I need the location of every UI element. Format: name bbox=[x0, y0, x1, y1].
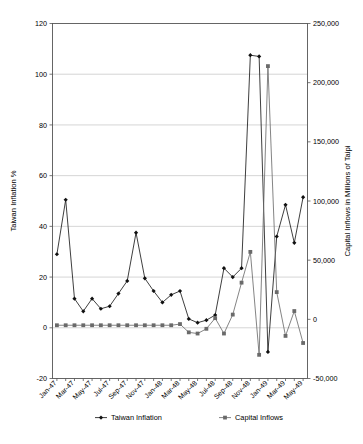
data-point-marker bbox=[231, 313, 235, 317]
chart-legend: Taiwan InflationCapital Inflows bbox=[95, 413, 283, 422]
y-axis-right-tick-label: 200,000 bbox=[313, 78, 339, 87]
data-point-marker bbox=[301, 341, 305, 345]
data-point-marker bbox=[73, 323, 77, 327]
chart-figure: 120100806040200-20 250,000200,000150,000… bbox=[0, 0, 363, 444]
series-line-2 bbox=[57, 66, 303, 355]
data-point-marker bbox=[257, 353, 261, 357]
legend-entry-label: Capital Inflows bbox=[235, 413, 283, 422]
data-point-marker bbox=[283, 203, 287, 207]
y-axis-right-title: Capital Inflows in Millions of Taipi bbox=[343, 145, 352, 256]
x-axis-tick-label: Sep-48 bbox=[213, 379, 235, 401]
y-axis-left-tick-label: 40 bbox=[39, 222, 47, 231]
data-point-marker bbox=[240, 281, 244, 285]
y-axis-right-tick-label: -50,000 bbox=[313, 374, 337, 383]
data-point-marker bbox=[134, 231, 138, 235]
y-axis-left-ticks: 120100806040200-20 bbox=[35, 19, 53, 383]
data-point-marker bbox=[117, 323, 121, 327]
data-point-marker bbox=[143, 323, 147, 327]
x-axis-tick-label: May-49 bbox=[282, 379, 304, 401]
data-point-marker bbox=[266, 350, 270, 354]
x-axis-tick-label: Sep-47 bbox=[107, 379, 129, 401]
data-point-marker bbox=[64, 323, 68, 327]
y-axis-right-tick-label: 150,000 bbox=[313, 137, 339, 146]
data-point-marker bbox=[90, 323, 94, 327]
data-point-marker bbox=[301, 195, 305, 199]
legend-entry-label: Taiwan Inflation bbox=[111, 413, 162, 422]
data-point-marker bbox=[248, 250, 252, 254]
series-markers-group bbox=[55, 53, 305, 357]
y-axis-left-tick-label: 20 bbox=[39, 273, 47, 282]
y-axis-left-tick-label: 60 bbox=[39, 171, 47, 180]
data-point-marker bbox=[55, 252, 59, 256]
y-axis-left-tick-label: 120 bbox=[35, 19, 47, 28]
series-lines-group bbox=[57, 55, 303, 355]
data-point-marker bbox=[178, 322, 182, 326]
data-point-marker bbox=[266, 64, 270, 68]
data-point-marker bbox=[81, 323, 85, 327]
y-axis-right-ticks: 250,000200,000150,000100,00050,0000-50,0… bbox=[308, 19, 339, 383]
y-axis-right-tick-label: 250,000 bbox=[313, 19, 339, 28]
data-point-marker bbox=[64, 198, 68, 202]
data-point-marker bbox=[187, 330, 191, 334]
data-point-marker bbox=[161, 323, 165, 327]
series-line-1 bbox=[57, 55, 303, 352]
y-axis-right-tick-label: 100,000 bbox=[313, 197, 339, 206]
x-axis-tick-label: Nov-48 bbox=[230, 379, 251, 400]
y-axis-left-title: Taiwan Inflation % bbox=[9, 170, 18, 231]
data-point-marker bbox=[152, 323, 156, 327]
chart-canvas: 120100806040200-20 250,000200,000150,000… bbox=[0, 0, 363, 444]
data-point-marker bbox=[169, 323, 173, 327]
y-axis-left-tick-label: -20 bbox=[37, 374, 47, 383]
y-axis-left-tick-label: 0 bbox=[43, 323, 47, 332]
legend-marker-square bbox=[223, 416, 227, 420]
data-point-marker bbox=[178, 289, 182, 293]
y-axis-right-tick-label: 0 bbox=[313, 315, 317, 324]
data-point-marker bbox=[108, 323, 112, 327]
data-point-marker bbox=[55, 323, 59, 327]
y-axis-left-tick-label: 80 bbox=[39, 121, 47, 130]
y-axis-left-tick-label: 100 bbox=[35, 70, 47, 79]
data-point-marker bbox=[204, 327, 208, 331]
data-point-marker bbox=[257, 54, 261, 58]
data-point-marker bbox=[196, 332, 200, 336]
data-point-marker bbox=[134, 323, 138, 327]
data-point-marker bbox=[204, 318, 208, 322]
data-point-marker bbox=[284, 334, 288, 338]
data-point-marker bbox=[292, 241, 296, 245]
data-point-marker bbox=[99, 323, 103, 327]
x-axis-tick-label: Nov-47 bbox=[125, 379, 146, 400]
x-axis-tick-label: May-47 bbox=[71, 379, 93, 401]
data-point-marker bbox=[275, 290, 279, 294]
data-point-marker bbox=[222, 332, 226, 336]
y-axis-right-tick-label: 50,000 bbox=[313, 256, 335, 265]
data-point-marker bbox=[275, 234, 279, 238]
data-point-marker bbox=[195, 321, 199, 325]
data-point-marker bbox=[292, 309, 296, 313]
legend-marker-diamond bbox=[99, 416, 103, 420]
x-axis-ticks: Jan-47Mar-47May-47Jul-47Sep-47Nov-47Jan-… bbox=[38, 379, 305, 402]
data-point-marker bbox=[248, 53, 252, 57]
x-axis-tick-label: May-48 bbox=[177, 379, 199, 401]
data-point-marker bbox=[213, 316, 217, 320]
data-point-marker bbox=[187, 317, 191, 321]
data-point-marker bbox=[125, 323, 129, 327]
